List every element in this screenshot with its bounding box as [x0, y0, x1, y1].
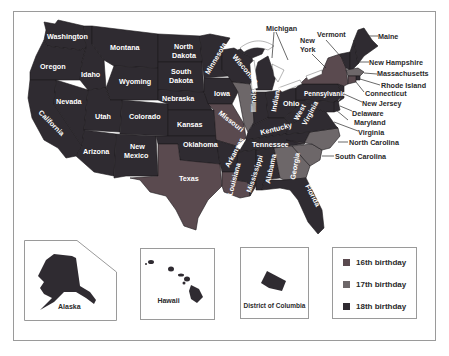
- label-oregon: Oregon: [40, 62, 66, 71]
- island-kauai[interactable]: [148, 260, 154, 264]
- inset-alaska: Alaska: [24, 240, 117, 321]
- label-south-carolina: South Carolina: [335, 152, 387, 161]
- legend-swatch-17th: [343, 281, 350, 288]
- legend: 16th birthday 17th birthday 18th birthda…: [332, 247, 417, 319]
- label-tennessee: Tennessee: [252, 140, 289, 149]
- label-oklahoma: Oklahoma: [183, 140, 219, 149]
- label-north-dakota-2: Dakota: [172, 51, 197, 60]
- label-south-dakota-1: South: [171, 67, 191, 76]
- label-vermont: Vermont: [317, 30, 346, 39]
- state-dc[interactable]: [261, 271, 286, 291]
- legend-label-17th: 17th birthday: [356, 280, 406, 289]
- legend-item-16th: 16th birthday: [343, 258, 406, 267]
- label-dc: District of Columbia: [241, 302, 308, 309]
- label-new-york-1: New: [300, 36, 315, 45]
- dc-shape: [241, 248, 310, 320]
- label-illinois: Illinois: [249, 89, 258, 112]
- island-maui[interactable]: [184, 277, 190, 282]
- label-massachusetts: Massachusetts: [377, 69, 429, 78]
- leader-rhode-island: [360, 79, 380, 85]
- label-michigan: Michigan: [266, 24, 297, 33]
- label-washington: Washington: [47, 32, 88, 41]
- state-new-york[interactable]: [300, 54, 348, 86]
- hawaii-islands: [141, 249, 216, 321]
- label-montana: Montana: [110, 43, 141, 52]
- label-nevada: Nevada: [56, 97, 83, 106]
- island-lanai[interactable]: [183, 282, 186, 285]
- label-new-mexico-1: New: [130, 142, 145, 151]
- label-alaska: Alaska: [58, 303, 81, 310]
- island-niihau[interactable]: [145, 263, 147, 265]
- island-molokai[interactable]: [178, 274, 184, 277]
- label-north-carolina: North Carolina: [349, 138, 400, 147]
- label-wyoming: Wyoming: [119, 77, 151, 86]
- label-arizona: Arizona: [83, 147, 110, 156]
- label-kansas: Kansas: [177, 120, 203, 129]
- label-virginia: Virginia: [358, 128, 385, 137]
- label-iowa: Iowa: [214, 89, 231, 98]
- state-rhode-island[interactable]: [356, 76, 360, 80]
- label-new-jersey: New Jersey: [362, 99, 402, 108]
- label-delaware: Delaware: [352, 109, 384, 118]
- legend-item-17th: 17th birthday: [343, 280, 406, 289]
- inset-hawaii: Hawaii: [140, 248, 215, 320]
- legend-label-16th: 16th birthday: [356, 258, 406, 267]
- label-texas: Texas: [179, 174, 199, 183]
- legend-swatch-16th: [343, 259, 350, 266]
- state-connecticut[interactable]: [348, 76, 356, 84]
- label-colorado: Colorado: [129, 112, 161, 121]
- leader-maryland: [336, 110, 348, 120]
- label-idaho: Idaho: [81, 70, 101, 79]
- label-new-hampshire: New Hampshire: [369, 58, 423, 67]
- legend-swatch-18th: [343, 303, 350, 310]
- leader-new-jersey: [344, 94, 362, 102]
- label-new-mexico-2: Mexico: [124, 151, 149, 160]
- leader-new-york: [312, 54, 326, 68]
- label-nebraska: Nebraska: [162, 94, 195, 103]
- leader-massachusetts: [364, 73, 377, 74]
- leader-vermont: [326, 40, 342, 58]
- leader-connecticut: [356, 82, 364, 92]
- legend-label-18th: 18th birthday: [356, 302, 406, 311]
- label-hawaii: Hawaii: [123, 297, 214, 304]
- inset-dc: District of Columbia: [240, 247, 309, 319]
- state-delaware[interactable]: [334, 100, 340, 112]
- label-pennsylvania: Pennsylvania: [304, 90, 346, 98]
- label-utah: Utah: [95, 112, 111, 121]
- label-maryland: Maryland: [354, 118, 386, 127]
- label-south-dakota-2: Dakota: [169, 76, 194, 85]
- island-oahu[interactable]: [168, 267, 174, 272]
- alaska-frame: Alaska: [24, 240, 117, 321]
- legend-item-18th: 18th birthday: [343, 302, 406, 311]
- leader-delaware: [340, 106, 352, 111]
- label-north-dakota-1: North: [174, 42, 193, 51]
- label-new-york-2: York: [300, 45, 315, 54]
- label-connecticut: Connecticut: [365, 89, 407, 98]
- label-maine: Maine: [378, 32, 398, 41]
- leader-michigan-2: [276, 32, 288, 60]
